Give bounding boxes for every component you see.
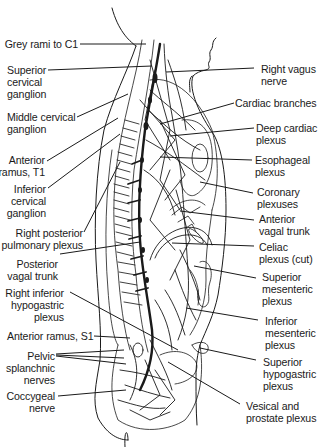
- pelvic-network: [118, 340, 175, 420]
- label-posterior-vagal-trunk: Posterior vagal trunk: [7, 258, 58, 282]
- label-inferior-mesenteric-plexus: Inferior mesenteric plexus: [265, 315, 316, 352]
- label-coccygeal-nerve: Coccygeal nerve: [6, 390, 55, 414]
- label-superior-mesenteric-plexus: Superior mesenteric plexus: [262, 271, 313, 308]
- rami: [128, 160, 148, 291]
- stomach-branches: [170, 200, 205, 245]
- label-anterior-ramus-s1: Anterior ramus, S1: [7, 330, 94, 342]
- label-superior-cervical-ganglion: Superior cervical ganglion: [7, 64, 46, 101]
- label-superior-hypogastric-plexus: Superior hypogastric plexus: [263, 356, 316, 393]
- label-right-posterior-pulmonary-plexus: Right posterior pulmonary plexus: [2, 227, 83, 251]
- intestines: [160, 261, 211, 384]
- label-middle-cervical-ganglion: Middle cervical ganglion: [7, 111, 76, 135]
- label-coronary-plexuses: Coronary plexuses: [257, 186, 300, 210]
- label-anterior-vagal-trunk: Anterior vagal trunk: [259, 213, 310, 237]
- label-pelvic-splanchnic-nerves: Pelvic splanchnic nerves: [6, 350, 55, 387]
- label-grey-rami-c1: Grey rami to C1: [5, 38, 78, 50]
- anatomy-figure: Grey rami to C1 Superior cervical gangli…: [0, 0, 328, 447]
- label-right-inferior-hypogastric-plexus: Right inferior hypogastric plexus: [5, 287, 64, 324]
- label-esophageal-plexus: Esophageal plexus: [255, 154, 310, 178]
- label-vesical-prostate-plexus: Vesical and prostate plexus: [246, 400, 316, 424]
- label-deep-cardiac-plexus: Deep cardiac plexus: [256, 122, 317, 146]
- label-inferior-cervical-ganglion: Inferior cervical ganglion: [7, 183, 46, 220]
- label-celiac-plexus-cut: Celiac plexus (cut): [259, 241, 313, 265]
- label-right-vagus-nerve: Right vagus nerve: [261, 63, 316, 87]
- vagus-network: [140, 44, 205, 350]
- label-cardiac-branches: Cardiac branches: [235, 97, 316, 109]
- label-anterior-ramus-t1: Anterior ramus, T1: [0, 154, 45, 178]
